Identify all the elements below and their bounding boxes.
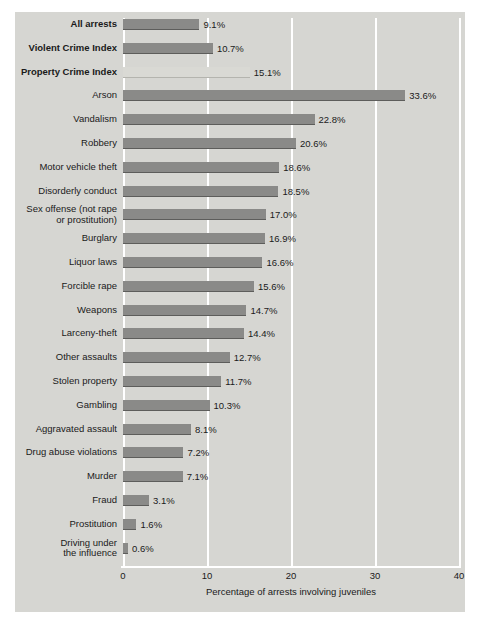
bar [123, 233, 265, 244]
bar-row: Liquor laws16.6% [0, 256, 479, 281]
category-label: Arson [0, 90, 117, 101]
x-axis-title: Percentage of arrests involving juvenile… [123, 586, 459, 597]
category-label: Aggravated assault [0, 424, 117, 435]
category-label: Gambling [0, 400, 117, 411]
category-label: Stolen property [0, 376, 117, 387]
bar-row: Property Crime Index15.1% [0, 66, 479, 91]
bar [123, 400, 210, 411]
bar-row: Aggravated assault8.1% [0, 423, 479, 448]
bar-row: Arson33.6% [0, 89, 479, 114]
bar-row: Sex offense (not rape or prostitution)17… [0, 208, 479, 233]
bar-value-label: 14.4% [248, 328, 275, 339]
bar [123, 352, 230, 363]
bar-row: Stolen property11.7% [0, 375, 479, 400]
bar-value-label: 12.7% [234, 352, 261, 363]
bar-row: Robbery20.6% [0, 137, 479, 162]
bar [123, 305, 246, 316]
bar-value-label: 14.7% [250, 305, 277, 316]
bar-row: Drug abuse violations7.2% [0, 446, 479, 471]
x-tick-20: 20 [286, 570, 297, 581]
category-label: Vandalism [0, 114, 117, 125]
category-label: Motor vehicle theft [0, 162, 117, 173]
bar-value-label: 3.1% [153, 495, 175, 506]
bar [123, 543, 128, 554]
bar-value-label: 10.7% [217, 43, 244, 54]
category-label: Driving under the influence [0, 538, 117, 559]
bar [123, 519, 136, 530]
bar-value-label: 17.0% [270, 209, 297, 220]
category-label: Sex offense (not rape or prostitution) [0, 204, 117, 225]
bar-row: Forcible rape15.6% [0, 280, 479, 305]
bar [123, 471, 183, 482]
bar-value-label: 16.6% [266, 257, 293, 268]
bar-value-label: 22.8% [319, 114, 346, 125]
chart-figure: All arrests9.1%Violent Crime Index10.7%P… [0, 0, 479, 624]
x-tick-0: 0 [120, 570, 125, 581]
category-label: Drug abuse violations [0, 447, 117, 458]
category-label: Robbery [0, 138, 117, 149]
x-tick-10: 10 [202, 570, 213, 581]
bar [123, 67, 250, 78]
category-label: Fraud [0, 495, 117, 506]
bar [123, 209, 266, 220]
bar [123, 257, 262, 268]
bar [123, 424, 191, 435]
category-label: Larceny-theft [0, 328, 117, 339]
bar-value-label: 15.6% [258, 281, 285, 292]
bar [123, 186, 278, 197]
category-label: Violent Crime Index [0, 43, 117, 54]
category-label: Weapons [0, 305, 117, 316]
bar-row: Murder7.1% [0, 470, 479, 495]
bar-value-label: 18.6% [283, 162, 310, 173]
category-label: Murder [0, 471, 117, 482]
bar-row: Weapons14.7% [0, 304, 479, 329]
bar [123, 376, 221, 387]
bar-value-label: 7.1% [187, 471, 209, 482]
bar [123, 138, 296, 149]
bar-row: All arrests9.1% [0, 18, 479, 43]
bar-value-label: 18.5% [282, 186, 309, 197]
bar-row: Vandalism22.8% [0, 113, 479, 138]
bar-value-label: 7.2% [187, 447, 209, 458]
bar-row: Larceny-theft14.4% [0, 327, 479, 352]
bar-row: Burglary16.9% [0, 232, 479, 257]
bar [123, 328, 244, 339]
bar-row: Motor vehicle theft18.6% [0, 161, 479, 186]
category-label: Liquor laws [0, 257, 117, 268]
bar [123, 114, 315, 125]
category-label: Property Crime Index [0, 67, 117, 78]
bar [123, 447, 183, 458]
x-tick-40: 40 [454, 570, 465, 581]
bar-row: Fraud3.1% [0, 494, 479, 519]
bar-row: Driving under the influence0.6% [0, 542, 479, 567]
bar-value-label: 10.3% [214, 400, 241, 411]
bar-value-label: 16.9% [269, 233, 296, 244]
bar [123, 43, 213, 54]
category-label: Other assaults [0, 352, 117, 363]
bar-value-label: 9.1% [203, 19, 225, 30]
bar-value-label: 15.1% [254, 67, 281, 78]
category-label: Forcible rape [0, 281, 117, 292]
bar-value-label: 20.6% [300, 138, 327, 149]
bar [123, 19, 199, 30]
bar [123, 281, 254, 292]
bar-value-label: 8.1% [195, 424, 217, 435]
bar-value-label: 1.6% [140, 519, 162, 530]
category-label: All arrests [0, 19, 117, 30]
bar-value-label: 11.7% [225, 376, 251, 387]
bar [123, 90, 405, 101]
bar-row: Other assaults12.7% [0, 351, 479, 376]
bar-value-label: 33.6% [409, 90, 436, 101]
category-label: Burglary [0, 233, 117, 244]
bar [123, 162, 279, 173]
x-tick-30: 30 [370, 570, 381, 581]
bar-row: Violent Crime Index10.7% [0, 42, 479, 67]
bar [123, 495, 149, 506]
bar-value-label: 0.6% [132, 543, 154, 554]
bar-row: Gambling10.3% [0, 399, 479, 424]
category-label: Disorderly conduct [0, 186, 117, 197]
category-label: Prostitution [0, 519, 117, 530]
